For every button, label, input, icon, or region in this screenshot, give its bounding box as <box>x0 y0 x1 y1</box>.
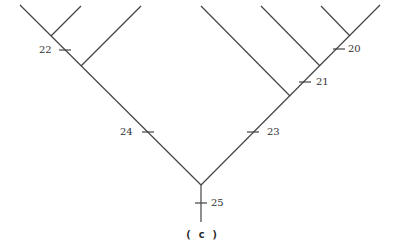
cladogram <box>0 0 412 242</box>
mark-label-22: 22 <box>39 45 52 55</box>
branch-right-1 <box>201 6 290 96</box>
branch-right-3 <box>321 6 350 36</box>
right-arm <box>201 5 380 185</box>
mark-label-25: 25 <box>211 198 224 208</box>
mark-label-21: 21 <box>316 77 329 87</box>
branch-left-1 <box>51 6 81 36</box>
mark-label-24: 24 <box>120 127 133 137</box>
figure-caption: ( c ) <box>185 228 218 241</box>
left-arm <box>20 5 201 185</box>
mark-label-20: 20 <box>348 44 361 54</box>
branch-left-2 <box>81 6 141 66</box>
branch-right-2 <box>261 6 320 66</box>
mark-label-23: 23 <box>267 127 280 137</box>
